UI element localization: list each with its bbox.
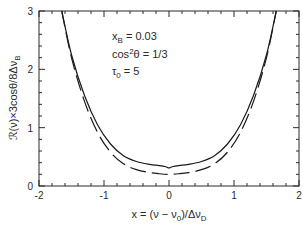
solid-curve	[62, 11, 277, 168]
x-tick-label: -1	[100, 190, 109, 201]
y-tick-label: 1	[27, 123, 33, 134]
annotation-xb: xB = 0.03	[112, 30, 157, 45]
line-chart: -2-1012 0123 xB = 0.03 cos2θ = 1/3 τ0 = …	[0, 0, 303, 225]
axis-ticks	[39, 11, 299, 186]
y-tick-label: 3	[27, 6, 33, 17]
x-tick-label: 0	[166, 190, 172, 201]
x-tick-labels: -2-1012	[35, 190, 303, 201]
y-tick-label: 2	[27, 64, 33, 75]
plot-frame	[39, 11, 299, 186]
y-axis-label: ℛ(ν)×3cosθ/8ΔνB	[7, 56, 22, 141]
y-tick-label: 0	[27, 181, 33, 192]
y-tick-labels: 0123	[27, 6, 33, 192]
annotation-cos2theta: cos2θ = 1/3	[112, 47, 168, 60]
annotation-tau0: τ0 = 5	[112, 65, 139, 80]
x-axis-label: x = (ν − ν0)/ΔνD	[131, 208, 206, 223]
dashed-curve	[62, 11, 277, 174]
x-tick-label: 2	[296, 190, 302, 201]
plot-curves	[62, 11, 277, 174]
x-tick-label: -2	[35, 190, 44, 201]
x-tick-label: 1	[231, 190, 237, 201]
